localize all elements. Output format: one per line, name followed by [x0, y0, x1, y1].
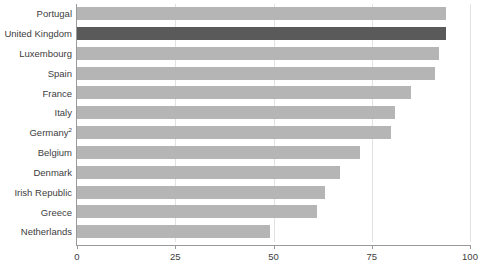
y-axis-label-spain: Spain [48, 69, 72, 79]
bar-row [77, 24, 470, 44]
x-tick-75 [372, 245, 373, 249]
bar-row [77, 183, 470, 203]
x-tick-0 [77, 245, 78, 249]
x-tick-label-100: 100 [462, 252, 478, 262]
bar-row [77, 64, 470, 84]
bar-germany [77, 126, 391, 139]
x-tick-label-0: 0 [74, 252, 79, 262]
bar-row [77, 202, 470, 222]
x-tick-50 [274, 245, 275, 249]
y-axis-label-france: France [42, 89, 72, 99]
x-tick-label-50: 50 [268, 252, 279, 262]
bar-belgium [77, 146, 360, 159]
bar-row [77, 103, 470, 123]
y-axis-label-netherlands: Netherlands [21, 227, 72, 237]
bar-chart: PortugalUnited KingdomLuxembourgSpainFra… [0, 0, 484, 267]
x-tick-label-25: 25 [170, 252, 181, 262]
y-axis-label-portugal: Portugal [37, 9, 72, 19]
y-axis-label-greece: Greece [41, 208, 72, 218]
bar-spain [77, 67, 435, 80]
bar-united-kingdom [77, 27, 446, 40]
bar-irish-republic [77, 186, 325, 199]
bar-denmark [77, 166, 340, 179]
y-axis-label-germany: Germany2 [29, 128, 72, 138]
bar-row [77, 222, 470, 242]
y-axis-label-luxembourg: Luxembourg [19, 49, 72, 59]
bar-portugal [77, 7, 446, 20]
bar-row [77, 163, 470, 183]
bar-italy [77, 106, 395, 119]
footnote-marker: 2 [69, 126, 72, 133]
plot-area [77, 4, 470, 242]
x-tick-100 [470, 245, 471, 249]
bar-row [77, 83, 470, 103]
y-axis-label-belgium: Belgium [38, 148, 72, 158]
bar-luxembourg [77, 47, 439, 60]
gridline-100 [470, 4, 471, 242]
bar-row [77, 143, 470, 163]
y-axis-label-united-kingdom: United Kingdom [4, 29, 72, 39]
x-tick-label-75: 75 [366, 252, 377, 262]
bar-netherlands [77, 225, 270, 238]
bar-row [77, 44, 470, 64]
y-axis-label-italy: Italy [55, 108, 72, 118]
bar-row [77, 4, 470, 24]
bar-france [77, 86, 411, 99]
y-axis-label-denmark: Denmark [33, 168, 72, 178]
bar-greece [77, 205, 317, 218]
y-axis-category-labels: PortugalUnited KingdomLuxembourgSpainFra… [0, 4, 72, 242]
bar-row [77, 123, 470, 143]
x-tick-25 [175, 245, 176, 249]
y-axis-label-irish-republic: Irish Republic [14, 188, 72, 198]
